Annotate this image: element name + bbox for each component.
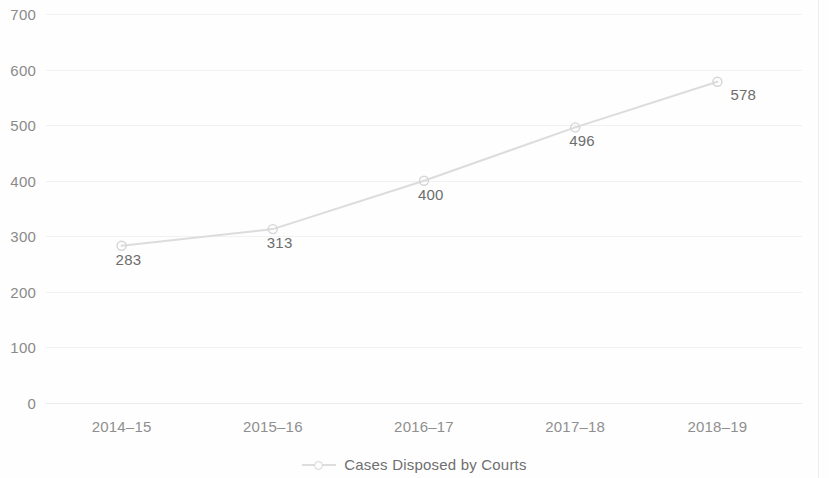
plot-area: 283 313 400 496 578 [46, 0, 802, 478]
series-line [122, 82, 718, 246]
legend-swatch-marker [314, 461, 323, 470]
data-label-3: 496 [569, 132, 595, 149]
data-label-0: 283 [116, 251, 142, 268]
x-tick-2017-18: 2017–18 [545, 418, 605, 435]
y-tick-100: 100 [0, 339, 36, 356]
y-tick-400: 400 [0, 173, 36, 190]
page-edge-rule [818, 0, 819, 478]
x-tick-2016-17: 2016–17 [394, 418, 454, 435]
y-tick-600: 600 [0, 62, 36, 79]
series-cases-disposed-by-courts [46, 0, 802, 478]
x-tick-2018-19: 2018–19 [687, 418, 747, 435]
y-tick-500: 500 [0, 117, 36, 134]
y-tick-0: 0 [0, 395, 36, 412]
x-tick-2014-15: 2014–15 [92, 418, 152, 435]
line-chart: 283 313 400 496 578 700 600 500 400 300 … [0, 0, 829, 478]
line-marker-icon [302, 459, 336, 471]
data-label-1: 313 [267, 234, 293, 251]
y-tick-200: 200 [0, 284, 36, 301]
data-label-4: 578 [730, 86, 756, 103]
data-label-2: 400 [418, 186, 444, 203]
x-tick-2015-16: 2015–16 [243, 418, 303, 435]
legend-label-cases-disposed-by-courts: Cases Disposed by Courts [344, 456, 526, 473]
y-tick-700: 700 [0, 6, 36, 23]
legend: Cases Disposed by Courts [0, 456, 829, 473]
y-tick-300: 300 [0, 228, 36, 245]
x-axis: 2014–15 2015–16 2016–17 2017–18 2018–19 [46, 418, 802, 442]
